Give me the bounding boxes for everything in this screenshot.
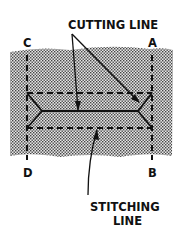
stitching-line-label-2: LINE xyxy=(113,214,142,228)
corner-label-d: D xyxy=(23,166,33,180)
stitching-line-label: STITCHING xyxy=(90,200,160,214)
cutting-line-label: CUTTING LINE xyxy=(68,18,158,32)
corner-label-c: C xyxy=(23,36,31,50)
seam-diagram: CUTTING LINE C A D B STITCHING LINE xyxy=(0,0,181,232)
corner-label-b: B xyxy=(148,166,157,180)
corner-label-a: A xyxy=(148,36,157,50)
